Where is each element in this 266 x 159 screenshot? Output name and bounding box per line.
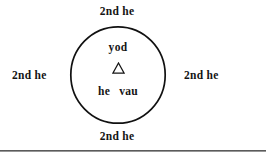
- triangle-icon: [112, 62, 125, 74]
- inner-label-yod: yod: [69, 41, 167, 53]
- inner-label-he-vau: hevau: [69, 85, 167, 97]
- outer-label-bottom: 2nd he: [0, 130, 266, 142]
- outer-label-left: 2nd he: [12, 69, 47, 81]
- inner-triangle-row: [69, 61, 167, 77]
- inner-label-he: he: [98, 85, 110, 97]
- figure-canvas: 2nd he 2nd he 2nd he 2nd he yod hevau: [0, 0, 266, 159]
- outer-label-top: 2nd he: [0, 5, 266, 17]
- horizontal-rule: [0, 150, 266, 152]
- inner-label-vau: vau: [119, 85, 138, 97]
- circle-group: yod hevau: [69, 25, 167, 125]
- outer-label-right: 2nd he: [184, 69, 219, 81]
